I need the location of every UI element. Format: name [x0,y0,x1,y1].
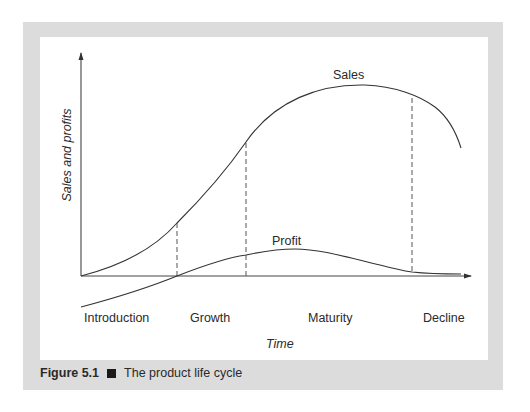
product-life-cycle-chart: Sales Profit Sales and profits Time Intr… [0,0,530,412]
figure-title: The product life cycle [124,366,242,380]
profit-label: Profit [272,234,302,248]
x-axis-label: Time [266,337,294,351]
sales-curve [81,85,461,276]
stage-label-introduction: Introduction [84,311,149,325]
figure-number: Figure 5.1 [40,366,99,380]
black-square-icon [107,369,116,378]
profit-curve [81,249,461,307]
figure-caption: Figure 5.1 The product life cycle [40,366,242,380]
sales-label: Sales [333,68,364,82]
stage-label-maturity: Maturity [308,311,353,325]
y-axis-label: Sales and profits [60,108,74,201]
stage-label-decline: Decline [423,311,465,325]
stage-label-growth: Growth [190,311,230,325]
